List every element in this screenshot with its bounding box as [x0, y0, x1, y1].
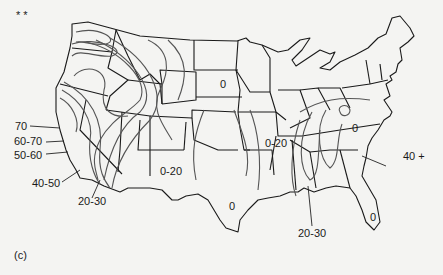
label-new-mexico-0-20: 0-20	[160, 166, 182, 177]
label-west-coast-40-50: 40-50	[32, 178, 60, 189]
isolines	[60, 31, 370, 196]
corner-marks: * *	[16, 10, 28, 21]
label-west-coast-70: 70	[15, 121, 27, 132]
label-east-coast-40plus: 40 +	[403, 151, 425, 162]
label-west-coast-60-70: 60-70	[14, 136, 42, 147]
panel-label: (c)	[14, 250, 27, 261]
label-west-coast-50-60: 50-60	[14, 150, 42, 161]
label-missouri-0-20: 0-20	[265, 138, 287, 149]
label-florida-0: 0	[370, 212, 376, 223]
label-appalachia-0: 0	[352, 123, 358, 134]
label-south-dakota-0: 0	[220, 79, 226, 90]
label-gulf-20-30: 20-30	[298, 228, 326, 239]
us-isoline-map	[0, 0, 443, 275]
label-texas-0: 0	[229, 201, 235, 212]
label-southwest-20-30: 20-30	[78, 196, 106, 207]
leader-lines	[30, 126, 386, 226]
us-outline	[56, 16, 414, 232]
